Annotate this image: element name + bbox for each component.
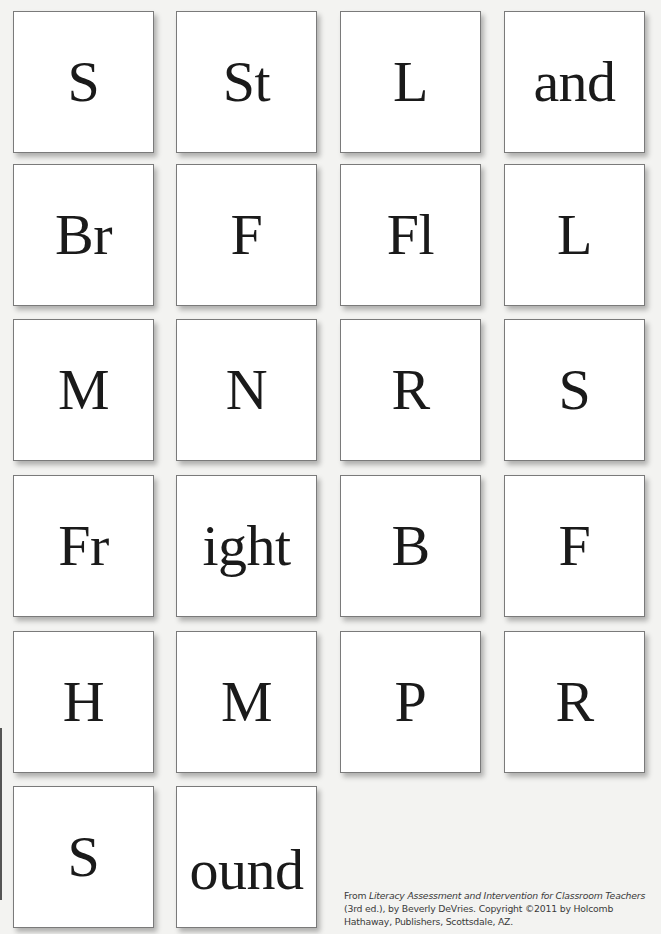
word-card-20[interactable]: R — [504, 631, 645, 773]
word-card-3[interactable]: L — [340, 11, 481, 153]
card-text: N — [226, 361, 267, 419]
word-card-15[interactable]: B — [340, 475, 481, 617]
card-text: and — [533, 53, 615, 111]
word-card-11[interactable]: R — [340, 319, 481, 461]
word-card-18[interactable]: M — [176, 631, 317, 773]
card-text: St — [223, 53, 270, 111]
card-text: Br — [55, 206, 112, 264]
word-card-5[interactable]: Br — [13, 164, 154, 306]
citation-prefix: From — [344, 890, 369, 901]
card-text: R — [391, 361, 429, 419]
card-text: Fr — [58, 517, 109, 575]
word-card-14[interactable]: ight — [176, 475, 317, 617]
word-card-17[interactable]: H — [13, 631, 154, 773]
word-card-7[interactable]: Fl — [340, 164, 481, 306]
card-text: S — [68, 828, 100, 886]
page-edge-bar — [0, 728, 2, 900]
citation-book-title: Literacy Assessment and Intervention for… — [369, 890, 645, 901]
word-card-8[interactable]: L — [504, 164, 645, 306]
card-text: P — [395, 673, 427, 731]
copyright-citation: From Literacy Assessment and Interventio… — [344, 889, 656, 928]
card-text: F — [559, 517, 591, 575]
word-card-12[interactable]: S — [504, 319, 645, 461]
card-text: M — [58, 361, 109, 419]
card-text: S — [68, 53, 100, 111]
card-text: L — [393, 53, 428, 111]
word-card-9[interactable]: M — [13, 319, 154, 461]
word-card-13[interactable]: Fr — [13, 475, 154, 617]
card-text: F — [231, 206, 263, 264]
word-card-4[interactable]: and — [504, 11, 645, 153]
word-card-10[interactable]: N — [176, 319, 317, 461]
card-text: R — [555, 673, 593, 731]
card-text: ound — [190, 841, 304, 899]
word-card-1[interactable]: S — [13, 11, 154, 153]
card-text: B — [391, 517, 429, 575]
card-text: ight — [202, 517, 290, 575]
card-text: S — [559, 361, 591, 419]
word-card-21[interactable]: S — [13, 786, 154, 928]
citation-details: (3rd ed.), by Beverly DeVries. Copyright… — [344, 903, 613, 927]
card-text: M — [221, 673, 272, 731]
card-text: L — [557, 206, 592, 264]
word-card-22[interactable]: ound — [176, 786, 317, 928]
word-card-6[interactable]: F — [176, 164, 317, 306]
card-text: H — [63, 673, 104, 731]
word-card-2[interactable]: St — [176, 11, 317, 153]
card-text: Fl — [387, 206, 434, 264]
word-card-16[interactable]: F — [504, 475, 645, 617]
word-card-19[interactable]: P — [340, 631, 481, 773]
